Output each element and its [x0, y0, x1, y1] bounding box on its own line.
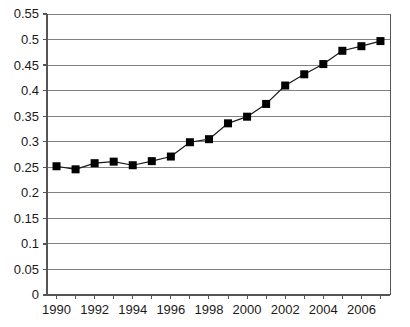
- data-point-marker: [281, 82, 289, 90]
- data-point-marker: [205, 135, 213, 143]
- y-tick-label: 0.2: [21, 185, 39, 200]
- data-point-marker: [148, 157, 156, 165]
- data-point-marker: [224, 119, 232, 127]
- y-tick-label: 0.4: [21, 83, 39, 98]
- x-tick-label: 1990: [42, 302, 71, 317]
- x-tick-label: 1996: [156, 302, 185, 317]
- data-point-marker: [300, 70, 308, 78]
- y-tick-label: 0.45: [14, 58, 39, 73]
- y-tick-label: 0.05: [14, 262, 39, 277]
- x-tick-label: 1992: [80, 302, 109, 317]
- line-chart: 00.050.10.150.20.250.30.350.40.450.50.55…: [0, 0, 410, 327]
- data-point-marker: [186, 138, 194, 146]
- y-tick-label: 0.1: [21, 236, 39, 251]
- y-tick-label: 0.5: [21, 32, 39, 47]
- data-point-marker: [262, 100, 270, 108]
- y-tick-label: 0.3: [21, 134, 39, 149]
- x-tick-label: 2004: [309, 302, 338, 317]
- chart-canvas: 00.050.10.150.20.250.30.350.40.450.50.55…: [0, 0, 410, 327]
- x-axis: [47, 295, 390, 299]
- x-tick-label: 1994: [118, 302, 147, 317]
- data-point-marker: [72, 165, 80, 173]
- y-tick-label: 0.15: [14, 211, 39, 226]
- data-point-marker: [338, 47, 346, 55]
- data-point-marker: [167, 153, 175, 161]
- data-point-marker: [53, 162, 61, 170]
- data-point-marker: [110, 158, 118, 166]
- series-line: [57, 41, 381, 169]
- y-tick-label: 0.55: [14, 6, 39, 21]
- x-tick-label: 2000: [233, 302, 262, 317]
- data-line: [57, 41, 381, 169]
- y-tick-label: 0.25: [14, 160, 39, 175]
- y-axis: [43, 14, 47, 295]
- data-point-marker: [129, 161, 137, 169]
- y-tick-label: 0: [32, 287, 39, 302]
- data-point-marker: [319, 60, 327, 68]
- data-point-marker: [91, 159, 99, 167]
- x-tick-label: 2006: [347, 302, 376, 317]
- data-point-marker: [243, 113, 251, 121]
- data-point-marker: [376, 37, 384, 45]
- x-tick-label: 1998: [195, 302, 224, 317]
- data-point-marker: [357, 42, 365, 50]
- y-tick-label: 0.35: [14, 109, 39, 124]
- x-tick-label: 2002: [271, 302, 300, 317]
- data-markers: [53, 37, 385, 173]
- y-tick-labels: 00.050.10.150.20.250.30.350.40.450.50.55: [14, 6, 39, 302]
- x-tick-labels: 199019921994199619982000200220042006: [42, 302, 376, 317]
